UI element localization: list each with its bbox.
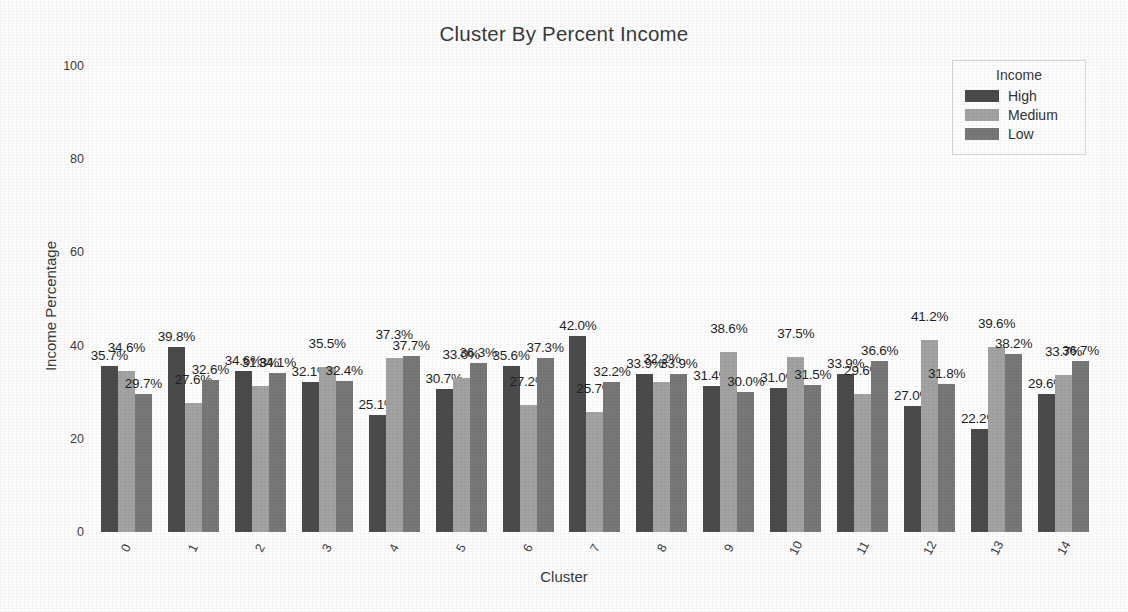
bar-fill (503, 366, 520, 532)
x-axis-tick: 9 (721, 542, 737, 555)
bar-group-bars: 25.1%37.3%37.7% (361, 66, 428, 532)
legend-swatch (965, 90, 999, 102)
bar-fill (603, 382, 620, 532)
bar-fill (101, 366, 118, 532)
chart-title: Cluster By Percent Income (0, 22, 1128, 46)
bar-fill (871, 361, 888, 532)
legend-title: Income (963, 67, 1075, 83)
bar-group-bars: 34.6%31.3%34.1% (227, 66, 294, 532)
x-axis-tick: 4 (386, 542, 402, 555)
x-axis-tick: 2 (252, 542, 268, 555)
bar-fill (118, 371, 135, 532)
legend-item-low[interactable]: Low (965, 126, 1075, 142)
bar-value-label: 37.5% (777, 326, 814, 341)
bar-fill (904, 406, 921, 532)
bar-group-bars: 30.7%33.0%36.3% (428, 66, 495, 532)
legend-swatch (965, 128, 999, 140)
bar-value-label: 32.4% (326, 363, 363, 378)
bar-group-bars: 35.7%34.6%29.7% (93, 66, 160, 532)
bar-group-bars: 39.8%27.6%32.6% (160, 66, 227, 532)
x-axis-tick: 5 (453, 542, 469, 555)
bar-value-label: 39.8% (158, 329, 195, 344)
bar-fill (1055, 375, 1072, 532)
bar-group-bars: 32.1%35.5%32.4% (294, 66, 361, 532)
chart-figure: Cluster By Percent Income Income Percent… (0, 0, 1128, 612)
bar-fill (302, 382, 319, 532)
x-axis-tick: 6 (520, 542, 536, 555)
bar-value-label: 35.6% (492, 348, 529, 363)
legend-item-high[interactable]: High (965, 88, 1075, 104)
y-axis-tick: 40 (70, 339, 84, 353)
bar-fill (202, 380, 219, 532)
x-axis-tick: 0 (119, 542, 135, 555)
bar-value-label: 32.2% (593, 364, 630, 379)
legend-rows: HighMediumLow (963, 88, 1075, 142)
bar-fill (1038, 394, 1055, 532)
bar-fill (369, 415, 386, 532)
bar-group: 31.4%38.6%30.0%9 (695, 66, 762, 532)
y-axis-tick: 100 (63, 59, 84, 73)
legend-label: High (1008, 88, 1037, 104)
bar-group: 35.6%27.2%37.3%6 (495, 66, 562, 532)
bar-group: 39.8%27.6%32.6%1 (160, 66, 227, 532)
y-axis-tick: 60 (70, 245, 84, 259)
y-axis-label: Income Percentage (42, 196, 59, 416)
bar-fill (653, 382, 670, 532)
bar-fill (787, 357, 804, 532)
bar-fill (1005, 354, 1022, 532)
y-axis-tick: 0 (77, 525, 84, 539)
bar-fill (235, 371, 252, 532)
x-axis-tick: 14 (1054, 539, 1073, 558)
bar-fill (770, 388, 787, 532)
bar-fill (670, 374, 687, 532)
bar-fill (319, 367, 336, 532)
bar-group-bars: 33.9%32.2%33.9% (628, 66, 695, 532)
bar-value-label: 39.6% (978, 316, 1015, 331)
legend-item-medium[interactable]: Medium (965, 107, 1075, 123)
bar-group: 42.0%25.7%32.2%7 (562, 66, 629, 532)
bar-group-bars: 33.9%29.6%36.6% (829, 66, 896, 532)
bar-fill (386, 358, 403, 532)
bar-value-label: 36.6% (861, 343, 898, 358)
bar-fill (636, 374, 653, 532)
bar-fill (252, 386, 269, 532)
bar-fill (537, 358, 554, 532)
bar-fill (1072, 361, 1089, 532)
bar-value-label: 42.0% (559, 318, 596, 333)
x-axis-tick: 8 (654, 542, 670, 555)
bar-group: 31.0%37.5%31.5%10 (762, 66, 829, 532)
bar-group: 32.1%35.5%32.4%3 (294, 66, 361, 532)
bar-fill (988, 347, 1005, 532)
x-axis-tick: 12 (920, 539, 939, 558)
legend-swatch (965, 109, 999, 121)
bar-value-label: 29.7% (125, 376, 162, 391)
x-axis-tick: 11 (853, 539, 871, 557)
bar-group-bars: 31.4%38.6%30.0% (695, 66, 762, 532)
bar-fill (453, 378, 470, 532)
plot-area: 02040608010035.7%34.6%29.7%039.8%27.6%32… (93, 66, 1097, 532)
bar-fill (837, 374, 854, 532)
bar-group-bars: 42.0%25.7%32.2% (562, 66, 629, 532)
bar-group: 33.9%29.6%36.6%11 (829, 66, 896, 532)
bar-group-bars: 31.0%37.5%31.5% (762, 66, 829, 532)
bar-group-bars: 35.6%27.2%37.3% (495, 66, 562, 532)
bar-value-label: 41.2% (911, 309, 948, 324)
bar-value-label: 37.7% (393, 338, 430, 353)
bar-value-label: 34.1% (259, 355, 296, 370)
bar-fill (569, 336, 586, 532)
bar-fill (737, 392, 754, 532)
bar-fill (336, 381, 353, 532)
bar-fill (938, 384, 955, 532)
bar-value-label: 32.6% (192, 362, 229, 377)
legend: Income HighMediumLow (952, 60, 1086, 155)
bar-value-label: 38.2% (995, 336, 1032, 351)
bar-fill (135, 394, 152, 532)
bar-fill (470, 363, 487, 532)
x-axis-tick: 10 (786, 539, 805, 558)
bar-group: 35.7%34.6%29.7%0 (93, 66, 160, 532)
bar-fill (804, 385, 821, 532)
bar-fill (185, 403, 202, 532)
x-axis-tick: 13 (987, 539, 1006, 558)
bar-value-label: 38.6% (710, 321, 747, 336)
bar-value-label: 31.5% (794, 367, 831, 382)
